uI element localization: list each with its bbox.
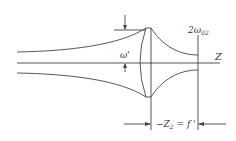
axis-label: Z [214,51,223,62]
arrowhead-icon [123,25,127,30]
arrowhead-icon [123,63,127,68]
distance-label: −Z2 = f ' [156,119,196,130]
waist-in-label: ω' [120,50,130,60]
arrowhead-icon [198,122,204,126]
arrowhead-icon [145,122,151,126]
beam-envelope-bottom-right [151,70,198,97]
beam-envelope-bottom-left [17,73,146,97]
beam-diagram: ω' 2ω02 Z −Z2 = f ' [0,0,236,141]
waist-out-label: 2ω02 [187,25,209,36]
lens [140,28,151,97]
beam-envelope-top-left [17,28,146,52]
